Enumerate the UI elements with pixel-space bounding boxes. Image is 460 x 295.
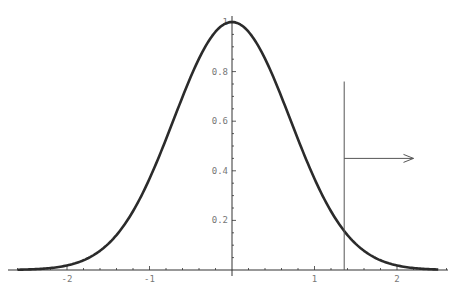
x-tick-label: 2 <box>394 274 399 284</box>
y-tick-label: 0.2 <box>212 215 228 225</box>
y-tick-label: 0.6 <box>212 116 228 126</box>
x-tick-label: -1 <box>144 274 155 284</box>
gaussian-chart: -2-1120.20.40.60.81 <box>0 0 460 295</box>
tick-labels: -2-1120.20.40.60.81 <box>62 17 400 284</box>
x-tick-label: 1 <box>312 274 317 284</box>
x-tick-label: -2 <box>62 274 73 284</box>
gaussian-curve <box>18 22 439 270</box>
y-tick-label: 0.4 <box>212 166 228 176</box>
axes <box>8 16 448 276</box>
y-tick-label: 0.8 <box>212 67 228 77</box>
ticks <box>18 22 447 270</box>
